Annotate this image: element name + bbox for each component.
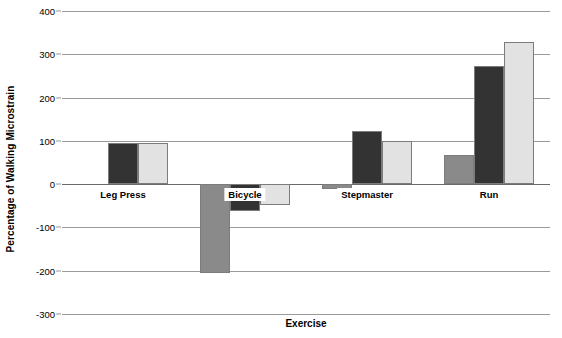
y-tick-label: 100 (39, 135, 55, 146)
y-tick-mark--100 (56, 227, 61, 228)
y-tick-mark--300 (56, 314, 61, 315)
y-tick-label: -300 (36, 309, 55, 320)
y-tick-mark-100 (56, 140, 61, 141)
category-label: Leg Press (96, 188, 149, 201)
x-axis-title: Exercise (62, 318, 550, 329)
y-tick-label: 300 (39, 49, 55, 60)
bar (504, 42, 534, 184)
category-label: Stepmaster (337, 188, 397, 201)
y-axis-title: Percentage of Walking Microstrain (0, 0, 20, 338)
plot-area: 4003002001000-100-200-300 Leg PressBicyc… (62, 11, 550, 314)
bar-chart: Percentage of Walking Microstrain 400300… (0, 0, 562, 338)
y-tick-mark-400 (56, 11, 61, 12)
gridline--300 (62, 314, 550, 315)
y-tick-mark-300 (56, 54, 61, 55)
y-tick-mark--200 (56, 270, 61, 271)
bars-layer (62, 11, 550, 314)
y-tick-label: 0 (50, 179, 55, 190)
bar (352, 131, 382, 184)
category-label: Run (476, 188, 502, 201)
bar (382, 141, 412, 184)
bar (474, 66, 504, 184)
bar (444, 155, 474, 184)
y-tick-label: 400 (39, 6, 55, 17)
y-tick-mark-200 (56, 97, 61, 98)
y-tick-label: -200 (36, 265, 55, 276)
bar (108, 143, 138, 184)
y-tick-mark-0 (56, 184, 61, 185)
bar (138, 143, 168, 185)
y-tick-label: -100 (36, 222, 55, 233)
category-label: Bicycle (224, 188, 265, 201)
y-tick-label: 200 (39, 92, 55, 103)
